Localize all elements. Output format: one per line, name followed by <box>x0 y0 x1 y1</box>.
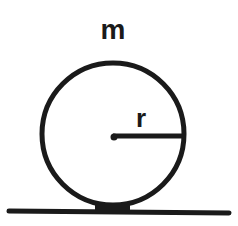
center-dot <box>111 134 118 141</box>
diagram-canvas: m r <box>0 0 238 226</box>
mass-label: m <box>101 14 126 45</box>
contact-point <box>95 205 130 212</box>
radius-label: r <box>136 103 146 133</box>
